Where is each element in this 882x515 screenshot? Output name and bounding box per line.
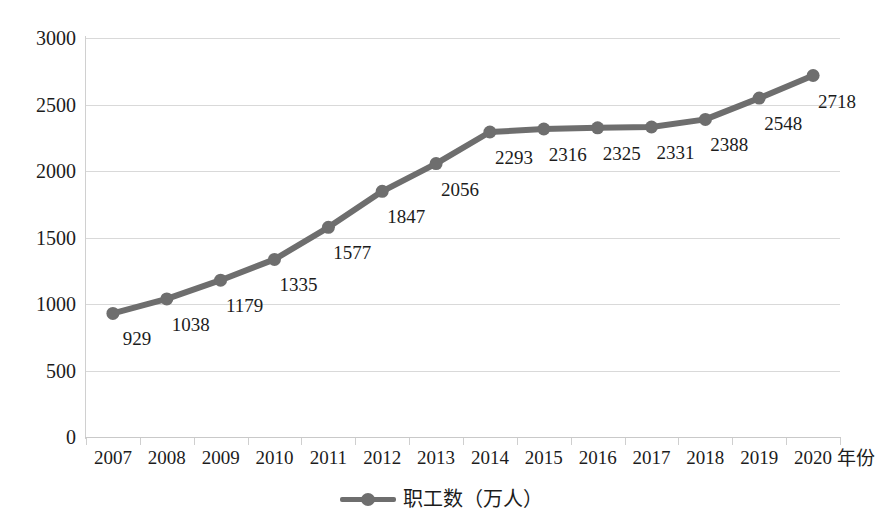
series-data-point [214,274,227,287]
x-axis-tick-label: 2010 [256,447,294,469]
x-axis-tick-label: 2014 [471,447,509,469]
x-axis-tick-label: 2017 [633,447,671,469]
x-axis-tick [840,438,841,445]
data-point-label: 1577 [333,243,371,263]
series-line-employees [86,38,840,437]
legend-item-label: 职工数（万人） [403,488,543,510]
data-point-label: 2293 [495,148,533,168]
series-data-point [322,221,335,234]
x-axis-tick-label: 2013 [417,447,455,469]
x-axis-tick [786,438,787,445]
x-axis-tick-labels: 2007200820092010201120122013201420152016… [0,447,882,475]
x-axis-unit-label: 年份 [837,447,875,469]
chart-legend: 职工数（万人） [0,483,882,515]
x-axis-tick-label: 2019 [740,447,778,469]
data-point-label: 1038 [172,315,210,335]
x-axis-tick-label: 2015 [525,447,563,469]
series-data-point [537,123,550,136]
data-point-label: 1335 [280,275,318,295]
chart-figure: 050010001500200025003000 929103811791335… [0,0,882,515]
x-axis-tick-label: 2016 [579,447,617,469]
series-data-point [645,121,658,134]
y-axis-tick-label: 2000 [36,161,76,181]
data-point-label: 929 [123,329,152,349]
series-data-point [699,113,712,126]
data-point-label: 1847 [387,207,425,227]
x-axis-tick [140,438,141,445]
data-point-label: 2331 [657,143,695,163]
x-axis-tick [571,438,572,445]
series-data-point [160,292,173,305]
series-data-point [430,157,443,170]
data-point-label: 2548 [764,114,802,134]
x-axis-tick [86,438,87,445]
series-data-point [106,307,119,320]
x-axis-tick [625,438,626,445]
x-axis-tick [678,438,679,445]
y-axis-tick-label: 2500 [36,95,76,115]
x-axis-tick-label: 2020 [794,447,832,469]
data-point-label: 2056 [441,180,479,200]
x-axis-tick [409,438,410,445]
x-axis-tick [517,438,518,445]
y-axis-tick-label: 1500 [36,228,76,248]
x-axis-tick-label: 2011 [310,447,347,469]
x-axis-tick [301,438,302,445]
plot-area: 9291038117913351577184720562293231623252… [86,38,840,437]
x-axis-tick [463,438,464,445]
x-axis-tick-label: 2012 [363,447,401,469]
y-axis-tick-label: 0 [66,427,76,447]
x-axis-tick-label: 2009 [202,447,240,469]
legend-marker-icon [340,491,396,507]
data-point-label: 2325 [603,144,641,164]
x-axis-tick [732,438,733,445]
x-axis-tick [248,438,249,445]
x-axis-tick [194,438,195,445]
data-point-label: 2718 [818,92,856,112]
x-axis-tick-label: 2007 [94,447,132,469]
x-axis-tick-label: 2018 [686,447,724,469]
series-data-point [753,92,766,105]
data-point-label: 1179 [226,296,263,316]
y-axis-tick-label: 1000 [36,294,76,314]
y-axis-tick-label: 3000 [36,28,76,48]
series-data-point [268,253,281,266]
series-data-point [483,126,496,139]
x-axis-tick [355,438,356,445]
data-point-label: 2388 [710,135,748,155]
series-data-point [376,185,389,198]
data-point-label: 2316 [549,145,587,165]
series-data-point [807,69,820,82]
x-axis-tick-label: 2008 [148,447,186,469]
y-axis-tick-labels: 050010001500200025003000 [0,0,76,515]
y-axis-tick-label: 500 [46,361,76,381]
legend-circle-marker [361,493,375,506]
series-data-point [591,121,604,134]
